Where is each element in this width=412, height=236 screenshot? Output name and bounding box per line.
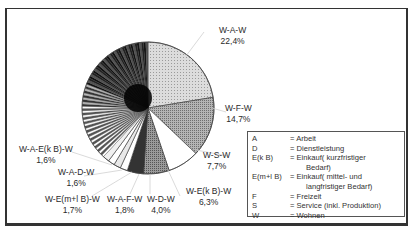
legend-value: = Dienstleistung bbox=[290, 144, 400, 154]
legend-key bbox=[252, 182, 290, 192]
legend-value: = Einkauf( mittel- und bbox=[290, 172, 400, 182]
label-w-a-f-w: W-A-F-W 1,8% bbox=[107, 194, 142, 216]
legend-row-ekb: E(k B)= Einkauf( kurzfristiger bbox=[252, 153, 400, 163]
legend-row-ekb-cont: Bedarf) bbox=[252, 163, 400, 173]
pie-slices bbox=[82, 42, 214, 174]
legend-key: A bbox=[252, 134, 290, 144]
legend-key: S bbox=[252, 201, 290, 211]
label-name: W-A-E(k B)-W bbox=[19, 144, 73, 155]
legend-value: = Arbeit bbox=[290, 134, 400, 144]
label-w-d-w: W-D-W 4,0% bbox=[147, 194, 175, 216]
label-name: W-F-W bbox=[225, 103, 252, 114]
label-w-a-d-w: W-A-D-W 1,6% bbox=[58, 167, 94, 189]
label-name: W-A-W bbox=[219, 25, 246, 36]
label-w-a-w: W-A-W 22,4% bbox=[219, 25, 246, 47]
label-pct: 7,7% bbox=[203, 161, 230, 172]
label-w-a-ek-b-w: W-A-E(k B)-W 1,6% bbox=[19, 144, 73, 166]
label-pct: 22,4% bbox=[219, 36, 246, 47]
label-name: W-E(m+l B)-W bbox=[45, 194, 100, 205]
label-name: W-S-W bbox=[203, 150, 230, 161]
legend-value: = Einkauf( kurzfristiger bbox=[290, 153, 400, 163]
legend-row-d: D= Dienstleistung bbox=[252, 144, 400, 154]
label-name: W-E(k B)-W bbox=[186, 186, 231, 197]
legend-row-emlb-cont: langfristiger Bedarf) bbox=[252, 182, 400, 192]
label-name: W-A-F-W bbox=[107, 194, 142, 205]
legend-value: Bedarf) bbox=[290, 163, 400, 173]
legend-key: W bbox=[252, 211, 290, 221]
legend-row-f: F= Freizeit bbox=[252, 192, 400, 202]
legend-key: F bbox=[252, 192, 290, 202]
label-name: W-A-D-W bbox=[58, 167, 94, 178]
label-name: W-D-W bbox=[147, 194, 175, 205]
label-w-s-w: W-S-W 7,7% bbox=[203, 150, 230, 172]
label-pct: 4,0% bbox=[147, 205, 175, 216]
pie-dark-core bbox=[124, 84, 152, 112]
label-pct: 6,3% bbox=[186, 197, 231, 208]
legend-value: = Wohnen bbox=[290, 211, 400, 221]
label-pct: 1,6% bbox=[19, 155, 73, 166]
legend-value: = Service (inkl. Produktion) bbox=[290, 201, 400, 211]
pie-slice-w-a-w bbox=[148, 42, 213, 108]
legend-value: langfristiger Bedarf) bbox=[290, 182, 400, 192]
label-w-em-l-b-w: W-E(m+l B)-W 1,7% bbox=[45, 194, 100, 216]
label-pct: 1,8% bbox=[107, 205, 142, 216]
legend-key: E(k B) bbox=[252, 153, 290, 163]
legend-box: A= Arbeit D= Dienstleistung E(k B)= Eink… bbox=[247, 131, 405, 217]
label-pct: 1,6% bbox=[58, 178, 94, 189]
label-pct: 1,7% bbox=[45, 205, 100, 216]
legend-value: = Freizeit bbox=[290, 192, 400, 202]
legend-key bbox=[252, 163, 290, 173]
legend-key: E(m+l B) bbox=[252, 172, 290, 182]
legend-row-a: A= Arbeit bbox=[252, 134, 400, 144]
label-pct: 14,7% bbox=[225, 114, 252, 125]
label-w-f-w: W-F-W 14,7% bbox=[225, 103, 252, 125]
legend-row-w: W= Wohnen bbox=[252, 211, 400, 221]
legend-key: D bbox=[252, 144, 290, 154]
legend-row-s: S= Service (inkl. Produktion) bbox=[252, 201, 400, 211]
legend-row-emlb: E(m+l B)= Einkauf( mittel- und bbox=[252, 172, 400, 182]
label-w-ek-b-w: W-E(k B)-W 6,3% bbox=[186, 186, 231, 208]
